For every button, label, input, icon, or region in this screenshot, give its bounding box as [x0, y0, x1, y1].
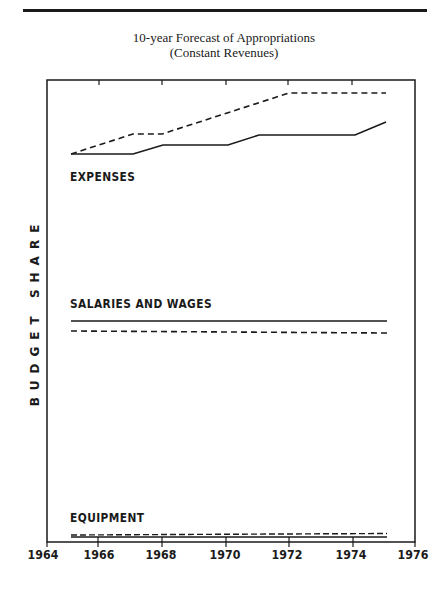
expenses-solid-line — [71, 122, 386, 154]
salaries-label: SALARIES AND WAGES — [70, 296, 212, 311]
equipment-label: EQUIPMENT — [70, 510, 144, 525]
x-tick-1976: 1976 — [398, 547, 429, 562]
expenses-label: EXPENSES — [70, 169, 135, 184]
x-tick-1974: 1974 — [336, 547, 367, 562]
x-tick-1966: 1966 — [84, 547, 115, 562]
equipment-dashed-line — [71, 534, 387, 536]
x-tick-1970: 1970 — [210, 547, 241, 562]
plot-frame — [47, 80, 415, 542]
x-tick-1964: 1964 — [28, 547, 59, 562]
x-tick-1972: 1972 — [272, 547, 303, 562]
plot-area — [0, 0, 448, 589]
x-tick-1968: 1968 — [146, 547, 177, 562]
salaries-dashed-line — [71, 331, 387, 333]
